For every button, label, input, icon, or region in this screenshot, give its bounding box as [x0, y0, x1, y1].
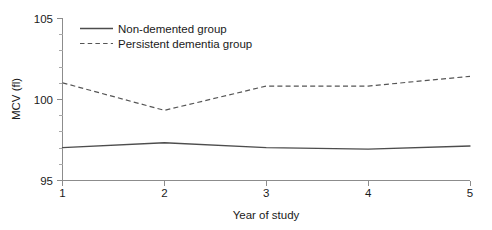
legend-label-persistent-dementia-group: Persistent dementia group: [118, 38, 252, 50]
x-tick-label-1: 1: [59, 187, 65, 199]
x-tick-label-2: 2: [161, 187, 167, 199]
y-tick-label-100: 100: [34, 94, 53, 106]
y-axis-title: MCV (fl): [10, 78, 22, 120]
y-tick-label-95: 95: [40, 175, 53, 187]
x-axis-title: Year of study: [233, 209, 300, 221]
series-line-persistent-dementia-group: [63, 76, 471, 110]
chart-figure: 105 100 95 MCV (fl) 1 2 3 4 5 Year of st…: [0, 0, 492, 230]
chart-legend: Non-demented group Persistent dementia g…: [80, 23, 252, 50]
x-tick-label-5: 5: [467, 187, 473, 199]
y-tick-label-105: 105: [34, 13, 53, 25]
x-tick-label-3: 3: [263, 187, 269, 199]
x-tick-label-4: 4: [365, 187, 372, 199]
legend-label-non-demented-group: Non-demented group: [118, 23, 227, 35]
series-line-non-demented-group: [63, 143, 471, 149]
line-chart-canvas: 105 100 95 MCV (fl) 1 2 3 4 5 Year of st…: [0, 0, 492, 230]
